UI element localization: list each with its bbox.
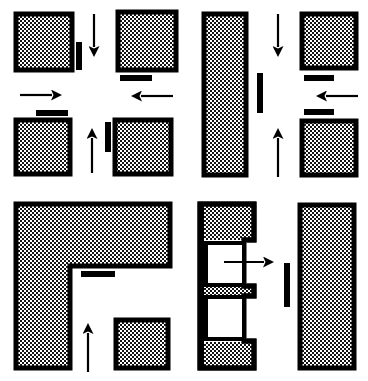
- patent-figure: [0, 0, 368, 381]
- block-tr-b: [302, 121, 356, 175]
- bar-horizontal-tl-lower: [36, 110, 68, 116]
- bar-horizontal-bl: [81, 271, 115, 277]
- cavity-lower-outline: [206, 297, 244, 339]
- block-tr-tall: [204, 14, 246, 175]
- cavity-upper-outline: [206, 243, 244, 285]
- bar-vertical-tl: [76, 42, 82, 70]
- bar-horizontal-tl-upper: [120, 75, 152, 81]
- block-br-tall-wrap: [300, 205, 354, 368]
- block-tl-c: [16, 120, 70, 174]
- bar-horizontal-tr-lower: [304, 109, 334, 115]
- figure-canvas: [0, 0, 368, 381]
- block-bl-square: [116, 320, 168, 368]
- bracket-left-spine: [198, 204, 204, 368]
- block-tr-a: [302, 14, 356, 68]
- block-tl-a: [16, 14, 72, 70]
- bar-horizontal-tr-upper: [304, 75, 334, 81]
- block-tl-b: [118, 12, 176, 70]
- bar-vertical-br: [284, 263, 290, 307]
- block-tl-d: [115, 120, 171, 174]
- bar-vertical-tr: [257, 73, 263, 113]
- bar-vertical-tl-right: [105, 122, 111, 152]
